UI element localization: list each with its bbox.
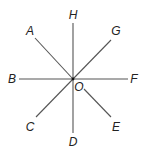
ray-diagram: O HGFEDCBA [0, 0, 142, 150]
point-label-g: G [111, 24, 120, 38]
point-label-c: C [26, 120, 35, 134]
point-label-a: A [25, 24, 34, 38]
ray-oe [84, 89, 111, 117]
point-label-b: B [8, 72, 16, 86]
ray-oa [35, 38, 73, 79]
point-label-d: D [69, 135, 78, 149]
ray-og [73, 40, 111, 79]
point-label-h: H [69, 8, 78, 22]
point-label-e: E [112, 120, 121, 134]
point-label-f: F [130, 72, 138, 86]
ray-oc [36, 79, 73, 117]
center-label: O [74, 80, 83, 94]
